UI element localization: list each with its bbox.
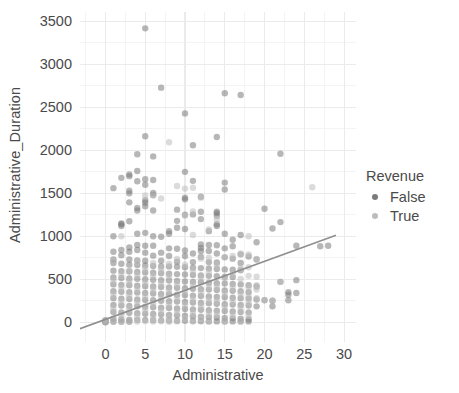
legend-label-true: True	[390, 208, 419, 224]
x-tick-label: 20	[256, 346, 272, 362]
y-tick-label: 1500	[40, 185, 72, 201]
x-axis-tick-labels: 051015202530	[0, 346, 459, 368]
legend-label-false: False	[390, 189, 425, 205]
legend-swatch-true-icon	[366, 213, 383, 219]
x-axis-title: Administrative	[80, 367, 356, 383]
scatter-points-false	[102, 25, 331, 325]
y-tick-label: 0	[64, 314, 72, 330]
legend-title: Revenue	[366, 168, 458, 184]
y-tick-label: 3500	[40, 13, 72, 29]
legend-swatch-false-icon	[366, 194, 383, 200]
plot-panel	[80, 12, 356, 342]
x-tick-label: 30	[336, 346, 352, 362]
legend-item-false[interactable]: False	[366, 187, 458, 206]
y-tick-label: 2000	[40, 142, 72, 158]
x-tick-label: 15	[217, 346, 233, 362]
x-tick-label: 25	[296, 346, 312, 362]
scatter-points-true	[102, 139, 315, 325]
y-tick-label: 500	[48, 271, 72, 287]
x-tick-label: 10	[177, 346, 193, 362]
y-tick-label: 1000	[40, 228, 72, 244]
legend-item-true[interactable]: True	[366, 206, 458, 225]
y-axis-title: Administrative_Duration	[2, 0, 28, 330]
y-tick-label: 2500	[40, 99, 72, 115]
y-tick-label: 3000	[40, 56, 72, 72]
x-axis-title-label: Administrative	[172, 367, 263, 383]
y-axis-tick-labels: 0500100015002000250030003500	[26, 0, 76, 393]
scatter-plot-figure: Administrative_Duration 0500100015002000…	[0, 0, 459, 393]
y-axis-title-label: Administrative_Duration	[7, 87, 23, 243]
legend: Revenue False True	[366, 168, 458, 225]
plot-canvas	[80, 12, 356, 342]
x-tick-label: 0	[101, 346, 109, 362]
x-tick-label: 5	[141, 346, 149, 362]
